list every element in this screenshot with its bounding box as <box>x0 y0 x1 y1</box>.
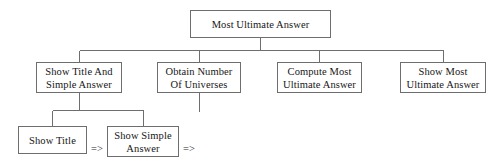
node-most-ultimate-answer[interactable]: Most Ultimate Answer <box>190 10 331 38</box>
node-show-title[interactable]: Show Title <box>18 126 87 154</box>
node-label-line: Show Title <box>29 134 76 147</box>
node-show-most-ultimate-answer[interactable]: Show Most Ultimate Answer <box>400 62 486 93</box>
node-label-line: Simple Answer <box>46 78 112 91</box>
arrow-right-icon: => <box>91 143 103 154</box>
node-label-line: Of Universes <box>171 78 228 91</box>
node-label-line: Show Most <box>418 65 467 78</box>
node-label-line: Most Ultimate Answer <box>212 18 310 31</box>
node-label-line: Show Title And <box>45 65 112 78</box>
node-label-line: Compute Most <box>288 65 352 78</box>
node-show-title-and-simple-answer[interactable]: Show Title And Simple Answer <box>36 62 122 93</box>
node-compute-most-ultimate-answer[interactable]: Compute Most Ultimate Answer <box>277 62 362 93</box>
node-label-line: Ultimate Answer <box>407 78 480 91</box>
arrow-right-icon: => <box>183 143 195 154</box>
node-obtain-number-of-universes[interactable]: Obtain Number Of Universes <box>157 62 241 93</box>
node-label-line: Ultimate Answer <box>283 78 356 91</box>
flow-diagram: Most Ultimate Answer Show Title And Simp… <box>0 0 504 164</box>
node-label-line: Show Simple <box>114 129 171 142</box>
node-show-simple-answer[interactable]: Show Simple Answer <box>107 126 179 157</box>
node-label-line: Obtain Number <box>166 65 233 78</box>
node-label-line: Answer <box>126 142 159 155</box>
